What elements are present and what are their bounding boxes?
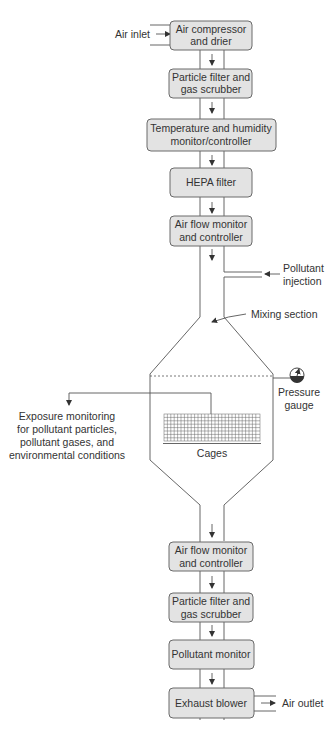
svg-text:Temperature and humidity: Temperature and humidity bbox=[150, 122, 272, 134]
exposure-monitoring-label: Exposure monitoring bbox=[19, 410, 115, 422]
pressure-gauge-label: Pressure bbox=[278, 386, 320, 398]
box-air-flow-upper: Air flow monitor and controller bbox=[170, 216, 252, 246]
pressure-gauge: Pressure gauge bbox=[273, 368, 320, 411]
svg-text:Particle filter and: Particle filter and bbox=[172, 71, 250, 83]
svg-text:Air flow monitor: Air flow monitor bbox=[175, 544, 248, 556]
svg-text:environmental conditions: environmental conditions bbox=[9, 449, 125, 461]
exposure-chamber-diagram: Air inlet Air compressor and drier Parti… bbox=[0, 0, 335, 730]
pollutant-injection: Pollutant injection bbox=[224, 262, 324, 287]
box-particle-filter-upper: Particle filter and gas scrubber bbox=[169, 69, 252, 98]
cages-label: Cages bbox=[197, 447, 227, 459]
svg-text:gauge: gauge bbox=[284, 399, 313, 411]
svg-text:Pollutant monitor: Pollutant monitor bbox=[172, 648, 251, 660]
exposure-monitoring: Exposure monitoring for pollutant partic… bbox=[9, 393, 211, 461]
svg-text:pollutant gases, and: pollutant gases, and bbox=[20, 436, 114, 448]
svg-text:and controller: and controller bbox=[179, 557, 243, 569]
box-particle-filter-lower: Particle filter and gas scrubber bbox=[169, 593, 253, 622]
box-exhaust-blower: Exhaust blower bbox=[169, 688, 254, 718]
box-pollutant-monitor: Pollutant monitor bbox=[169, 640, 254, 669]
box-temperature-humidity: Temperature and humidity monitor/control… bbox=[147, 119, 276, 151]
mixing-section: Mixing section bbox=[212, 308, 318, 322]
svg-text:Air flow monitor: Air flow monitor bbox=[175, 218, 248, 230]
svg-text:gas scrubber: gas scrubber bbox=[181, 608, 242, 620]
box-air-flow-lower: Air flow monitor and controller bbox=[169, 542, 253, 571]
svg-text:injection: injection bbox=[283, 275, 322, 287]
air-inlet-label: Air inlet bbox=[115, 28, 150, 40]
air-inlet: Air inlet bbox=[115, 25, 170, 45]
box-hepa-filter: HEPA filter bbox=[170, 168, 252, 197]
cages: Cages bbox=[163, 414, 261, 459]
svg-text:for pollutant particles,: for pollutant particles, bbox=[17, 423, 117, 435]
cage-grid-icon bbox=[164, 414, 260, 441]
svg-text:Exhaust blower: Exhaust blower bbox=[175, 697, 247, 709]
box-air-compressor: Air compressor and drier bbox=[170, 21, 252, 50]
pollutant-injection-label: Pollutant bbox=[283, 262, 324, 274]
air-outlet: Air outlet bbox=[254, 696, 324, 711]
svg-text:Particle filter and: Particle filter and bbox=[172, 595, 250, 607]
svg-text:HEPA filter: HEPA filter bbox=[186, 176, 236, 188]
svg-text:gas scrubber: gas scrubber bbox=[181, 83, 242, 95]
mixing-section-label: Mixing section bbox=[251, 308, 318, 320]
air-outlet-label: Air outlet bbox=[282, 697, 324, 709]
svg-text:Air compressor: Air compressor bbox=[176, 23, 247, 35]
svg-text:and controller: and controller bbox=[179, 231, 243, 243]
svg-text:monitor/controller: monitor/controller bbox=[170, 135, 252, 147]
svg-text:and drier: and drier bbox=[190, 35, 232, 47]
